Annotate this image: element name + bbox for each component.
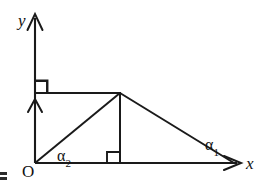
angle-label-alpha-1: α1	[205, 137, 219, 156]
scan-artifact	[0, 172, 7, 175]
origin-label: O	[22, 163, 34, 180]
altitude-foot-right-angle-icon	[107, 152, 120, 163]
scan-artifact	[0, 177, 7, 180]
geometry-figure: y x O α2 α1	[0, 0, 266, 188]
figure-canvas	[0, 0, 266, 188]
angle-label-alpha-2-subscript: 2	[65, 157, 71, 169]
top-left-right-angle-square-icon	[36, 81, 48, 94]
x-axis-label: x	[246, 155, 254, 172]
angle-label-alpha-1-subscript: 1	[213, 146, 219, 158]
top-left-right-angle-icon	[35, 80, 47, 93]
angle-label-alpha-2: α2	[57, 148, 71, 167]
y-axis-label: y	[18, 12, 26, 29]
